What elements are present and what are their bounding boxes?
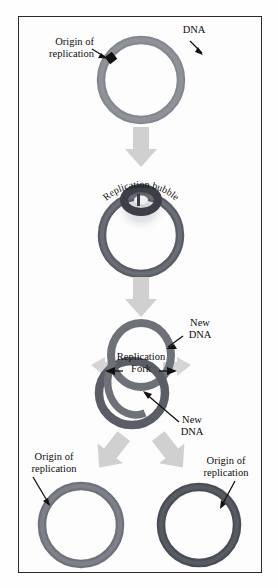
figure-frame: DNA Origin of replication xyxy=(18,16,262,573)
dna-leader-line xyxy=(190,41,202,53)
origin-label-line1: Origin of xyxy=(19,36,94,48)
origin-left-arrowhead xyxy=(43,498,50,506)
daughter-dna-ring-right xyxy=(161,487,237,563)
dna-arrowhead xyxy=(195,47,203,55)
replication-fork-label: Replication Fork xyxy=(87,351,195,374)
stage-1-parent-dna: DNA Origin of replication xyxy=(19,17,263,137)
replication-bubble-textpath: Replication bubble xyxy=(101,179,182,203)
replication-bubble-shape xyxy=(124,188,158,212)
replication-diagram-figure: DNA Origin of replication xyxy=(0,0,278,588)
new-dna-bottom-line1: New xyxy=(171,414,213,426)
replication-bubble-curved-text: Replication bubble xyxy=(101,179,182,203)
new-dna-top-line1: New xyxy=(179,317,221,329)
origin-right-arrowhead xyxy=(220,500,226,509)
dna-label-text: DNA xyxy=(183,24,206,35)
origin-right-line2: replication xyxy=(187,467,265,479)
origin-label-right: Origin of replication xyxy=(187,455,265,478)
dna-label: DNA xyxy=(171,24,217,36)
origin-label: Origin of replication xyxy=(19,36,94,59)
origin-of-replication-mark xyxy=(105,52,118,65)
origin-left-leader xyxy=(33,477,49,504)
origin-left-line1: Origin of xyxy=(15,451,93,463)
dna-ring xyxy=(102,196,180,274)
stage-4-graphic xyxy=(19,467,263,574)
stage-3-theta-structure: New DNA Replication Fork New DNA xyxy=(19,309,263,434)
stage-2-replication-bubble: Replication bubble xyxy=(19,167,263,285)
new-dna-top-label: New DNA xyxy=(179,317,221,340)
new-dna-top-arrowhead xyxy=(166,344,177,349)
stage-2-graphic: Replication bubble xyxy=(19,167,263,285)
dna-ring xyxy=(101,40,181,120)
origin-right-leader xyxy=(221,481,235,507)
down-arrow-icon-1 xyxy=(19,127,263,171)
daughter-dna-ring-left xyxy=(42,486,120,564)
origin-arrowhead xyxy=(98,53,107,59)
origin-label-line2: replication xyxy=(19,48,94,60)
new-dna-top-line2: DNA xyxy=(179,329,221,341)
origin-left-line2: replication xyxy=(15,463,93,475)
new-dna-bottom-arrowhead xyxy=(143,391,152,399)
bubble-glow xyxy=(113,177,169,233)
origin-right-line1: Origin of xyxy=(187,455,265,467)
fork-label-line1: Replication xyxy=(87,351,195,363)
origin-label-left: Origin of replication xyxy=(15,451,93,474)
arrow-stage1-to-stage2 xyxy=(19,127,263,171)
stage-1-graphic xyxy=(19,17,263,137)
stage-4-daughter-molecules: Origin of replication Origin of replicat… xyxy=(19,467,263,574)
fork-label-line2: Fork xyxy=(87,363,195,375)
